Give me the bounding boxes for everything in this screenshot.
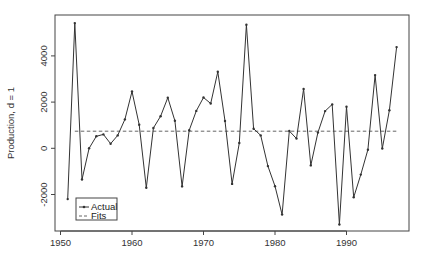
data-point: [195, 110, 197, 112]
data-point: [360, 173, 362, 175]
legend-label-fits: Fits: [91, 210, 107, 221]
data-point: [281, 213, 283, 215]
data-point: [124, 118, 126, 120]
x-tick-label: 1990: [336, 237, 357, 248]
data-point: [367, 149, 369, 151]
production-chart: 19501960197019801990 -2000020004000 Prod…: [0, 0, 431, 264]
actual-series-line: [68, 23, 397, 224]
data-point: [288, 130, 290, 132]
data-point: [353, 196, 355, 198]
data-point: [260, 134, 262, 136]
data-point: [310, 164, 312, 166]
data-point: [81, 178, 83, 180]
data-point: [159, 115, 161, 117]
data-point: [188, 129, 190, 131]
data-point: [145, 187, 147, 189]
data-point: [202, 96, 204, 98]
data-point: [374, 74, 376, 76]
y-axis: -2000020004000: [38, 45, 55, 206]
data-point: [109, 143, 111, 145]
data-point: [74, 22, 76, 24]
legend: Actual Fits: [76, 198, 117, 221]
data-point: [167, 97, 169, 99]
data-point: [174, 120, 176, 122]
data-point: [95, 135, 97, 137]
data-point: [152, 127, 154, 129]
data-point: [138, 124, 140, 126]
data-point: [274, 185, 276, 187]
y-axis-title: Production, d = 1: [5, 87, 16, 159]
data-point: [324, 110, 326, 112]
x-tick-label: 1960: [121, 237, 142, 248]
data-point: [117, 134, 119, 136]
data-point: [224, 120, 226, 122]
legend-actual-point-icon: [83, 206, 86, 209]
data-point: [131, 90, 133, 92]
data-point: [388, 109, 390, 111]
data-point: [331, 103, 333, 105]
data-point: [217, 71, 219, 73]
data-point: [245, 24, 247, 26]
data-point: [88, 147, 90, 149]
data-point: [295, 137, 297, 139]
data-point: [252, 128, 254, 130]
data-point: [238, 142, 240, 144]
data-point: [345, 106, 347, 108]
x-tick-label: 1970: [193, 237, 214, 248]
data-point: [302, 88, 304, 90]
data-point: [67, 198, 69, 200]
x-tick-label: 1980: [264, 237, 285, 248]
data-point: [102, 133, 104, 135]
data-point: [317, 131, 319, 133]
x-tick-label: 1950: [50, 237, 71, 248]
y-tick-label: 2000: [38, 92, 49, 113]
y-tick-label: 4000: [38, 45, 49, 66]
y-tick-label: 0: [38, 146, 49, 151]
data-point: [210, 102, 212, 104]
data-point: [231, 183, 233, 185]
data-point: [267, 165, 269, 167]
data-point: [381, 147, 383, 149]
data-point: [395, 46, 397, 48]
x-axis: 19501960197019801990: [50, 231, 357, 248]
data-point: [181, 185, 183, 187]
y-tick-label: -2000: [38, 182, 49, 206]
data-point: [338, 223, 340, 225]
